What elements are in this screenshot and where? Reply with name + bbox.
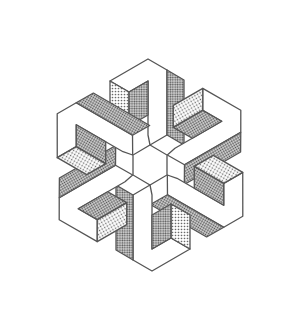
block-structure (38, 59, 262, 271)
isometric-block-figure (0, 0, 299, 330)
figure-canvas: Isometric line drawing of a six-fold rot… (0, 0, 299, 330)
center-hexagon (133, 145, 167, 185)
